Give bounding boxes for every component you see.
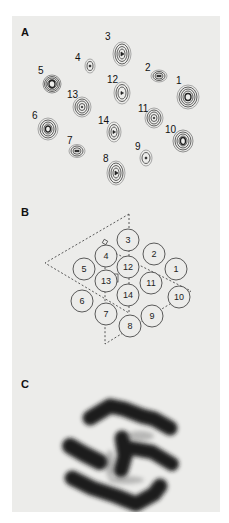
subunit-label-4: 4 [103, 251, 108, 261]
panel-a: A [12, 16, 220, 204]
contour-map: 1 2 3 4 5 6 7 8 9 10 11 12 13 14 [12, 16, 220, 204]
subunit-label-8: 8 [127, 321, 132, 331]
subunit-label-1: 1 [173, 264, 178, 274]
peak-label-7: 7 [67, 135, 73, 146]
peak-label-10: 10 [165, 124, 177, 135]
subunit-label-10: 10 [174, 292, 184, 302]
peak-label-6: 6 [32, 110, 38, 121]
peak-label-13: 13 [67, 89, 79, 100]
subunit-label-14: 14 [123, 290, 133, 300]
subunit-label-11: 11 [146, 278, 155, 288]
panel-b: B [12, 206, 220, 364]
peak-label-4: 4 [75, 52, 81, 63]
subunit-diagram: 1 2 3 4 5 6 7 8 9 10 11 12 13 14 [12, 206, 220, 364]
panel-c: C [12, 376, 220, 512]
peak-label-9: 9 [135, 141, 141, 152]
peak-label-1: 1 [176, 75, 182, 86]
subunit-label-3: 3 [125, 235, 130, 245]
subunit-label-13: 13 [101, 276, 111, 286]
projection-density-image [12, 376, 220, 512]
subunit-label-5: 5 [81, 264, 86, 274]
subunit-label-2: 2 [151, 249, 156, 259]
subunit-label-12: 12 [123, 262, 133, 272]
peak-label-8: 8 [103, 153, 109, 164]
subunit-label-7: 7 [103, 309, 108, 319]
peak-label-3: 3 [105, 31, 111, 42]
peak-label-2: 2 [145, 62, 151, 73]
peak-label-11: 11 [138, 103, 149, 114]
peak-label-5: 5 [38, 65, 44, 76]
figure: A [12, 16, 220, 512]
subunit-label-9: 9 [149, 311, 154, 321]
peak-label-12: 12 [107, 74, 119, 85]
peak-label-14: 14 [98, 115, 110, 126]
subunit-label-6: 6 [79, 296, 84, 306]
